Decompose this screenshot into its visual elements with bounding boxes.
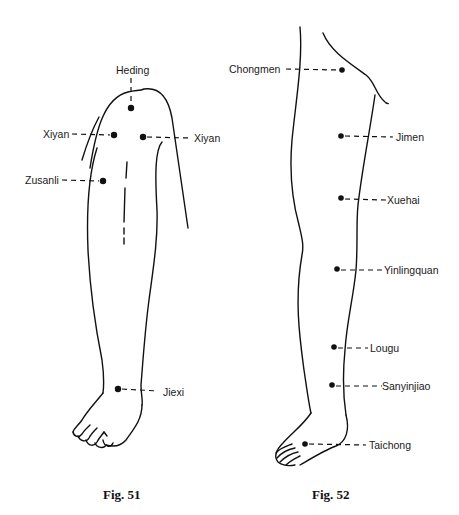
leg-diagrams [0, 0, 459, 515]
label-xiyan-lateral: Xiyan [194, 132, 220, 144]
point-xuehai [338, 195, 344, 201]
point-lougu [331, 344, 337, 350]
caption-fig51: Fig. 51 [103, 487, 141, 503]
point-sanyinjiao [329, 382, 335, 388]
point-chongmen [339, 67, 345, 73]
label-jimen: Jimen [396, 131, 424, 143]
point-heding [128, 105, 134, 111]
label-xuehai: Xuehai [387, 194, 420, 206]
point-zusanli [100, 178, 106, 184]
label-taichong: Taichong [369, 439, 411, 451]
fig52-leg-outline [276, 27, 388, 466]
label-zusanli: Zusanli [25, 174, 59, 186]
point-taichong [302, 441, 308, 447]
point-xiyan-lateral [140, 134, 146, 140]
label-yinlingquan: Yinlingquan [384, 264, 439, 276]
label-xiyan-medial: Xiyan [43, 128, 69, 140]
label-heding: Heding [116, 64, 149, 76]
label-chongmen: Chongmen [229, 63, 280, 75]
point-jiexi [115, 386, 121, 392]
point-yinlingquan [334, 266, 340, 272]
acupoint-dots [100, 67, 345, 447]
label-sanyinjiao: Sanyinjiao [382, 380, 430, 392]
label-lougu: Lougu [370, 342, 399, 354]
point-jimen [338, 133, 344, 139]
caption-fig52: Fig. 52 [312, 487, 350, 503]
point-xiyan-medial [111, 132, 117, 138]
label-jiexi: Jiexi [163, 386, 184, 398]
